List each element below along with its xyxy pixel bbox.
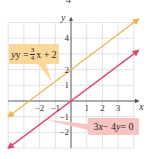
eq1-rhs: x + 2 (36, 49, 57, 60)
eq2-mid: − 4 (103, 121, 116, 132)
y-tick-label: −1 (59, 112, 69, 122)
x-axis-label: x (138, 101, 144, 112)
y-tick-label: 2 (65, 65, 70, 75)
x-tick-label: 2 (100, 103, 105, 113)
eq1-fraction: 3 4 (30, 47, 36, 62)
eq1-denominator: 4 (31, 55, 35, 62)
eq2-rhs: = 0 (120, 121, 133, 132)
equation-label-yellow: yy = 3 4 x + 2 (9, 44, 59, 64)
y-tick-label: 1 (65, 80, 70, 90)
graph: xy −2−1123421−1−2 (0, 0, 149, 159)
x-tick-label: 3 (116, 103, 121, 113)
x-tick-label: −2 (35, 103, 45, 113)
x-tick-label: 1 (84, 103, 89, 113)
pointer-yellow (38, 64, 52, 82)
y-tick-label: 4 (65, 33, 70, 43)
equation-label-pink: 3x − 4y = 0 (88, 118, 139, 135)
y-axis-label: y (60, 12, 66, 23)
y-tick-label: −2 (59, 127, 69, 137)
eq1-lhs: y = (16, 49, 29, 60)
